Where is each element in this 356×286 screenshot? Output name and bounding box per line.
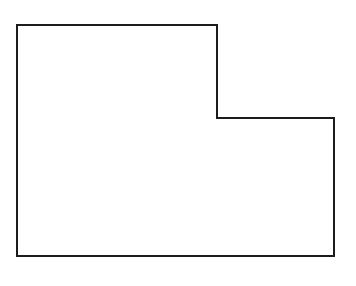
diagram-canvas bbox=[0, 0, 356, 286]
